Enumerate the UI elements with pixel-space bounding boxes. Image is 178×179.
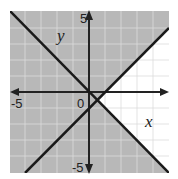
x-axis-label: x xyxy=(145,112,153,132)
tick-label-y-neg5: -5 xyxy=(72,160,84,175)
tick-label-x-neg5: -5 xyxy=(11,96,23,111)
tick-label-origin: 0 xyxy=(77,96,84,111)
tick-label-y-5: 5 xyxy=(80,11,87,26)
graph xyxy=(0,0,178,179)
y-axis-label: y xyxy=(57,26,65,46)
